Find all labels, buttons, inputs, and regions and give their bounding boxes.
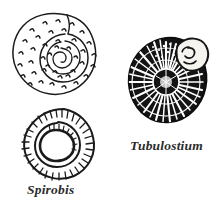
tubulostium-label: Tubulostium	[130, 138, 203, 154]
stippled-spiral-shell-drawing	[10, 10, 100, 102]
spirobis-shell	[18, 106, 98, 182]
illustration-plate: Spirobis	[0, 0, 213, 210]
tubulostium-shell	[126, 34, 210, 130]
aperture-opening	[40, 130, 74, 161]
aperture-lobe	[176, 39, 208, 71]
tubulostium-shell-drawing	[126, 34, 210, 130]
spirobis-shell-drawing	[18, 106, 98, 182]
stippled-spiral-shell	[10, 10, 100, 102]
inner-whorl	[153, 69, 179, 95]
spirobis-label: Spirobis	[27, 182, 74, 198]
